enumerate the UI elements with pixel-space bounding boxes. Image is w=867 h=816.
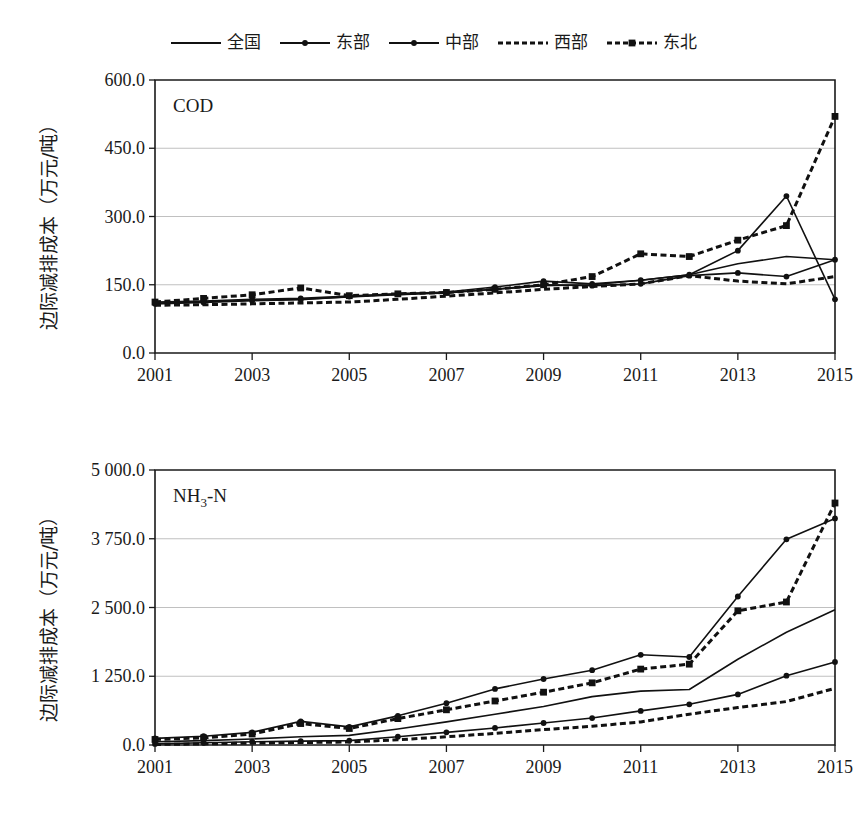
x-tick-label: 2009 (526, 365, 562, 385)
y-tick-label: 1 250.0 (91, 666, 145, 686)
data-point-东北 (297, 285, 304, 292)
legend-key-solid-line-dot (388, 36, 440, 50)
data-point-东北 (832, 113, 839, 120)
series-line-西部 (155, 688, 835, 744)
data-point-东北 (152, 299, 159, 306)
data-point-东部 (784, 193, 790, 199)
data-point-中部 (638, 708, 644, 714)
data-point-东北 (249, 731, 256, 738)
x-tick-label: 2009 (526, 757, 562, 777)
series-line-东部 (155, 518, 835, 738)
nh3n-y-axis-title: 边际减排成本（万元/吨） (34, 507, 61, 722)
legend-entry-全国[interactable]: 全国 (170, 34, 261, 51)
chart-panel-cod: 0.0150.0300.0450.0600.020012003200520072… (0, 62, 867, 407)
data-point-东北 (443, 289, 450, 296)
legend-key-dashed-line-square (606, 36, 658, 50)
y-tick-label: 2 500.0 (91, 598, 145, 618)
data-point-东部 (735, 594, 741, 600)
data-point-中部 (784, 274, 790, 280)
data-point-东北 (540, 689, 547, 696)
chart-legend: 全国东部中部西部东北 (0, 34, 867, 51)
data-point-东北 (783, 222, 790, 229)
data-point-中部 (686, 701, 692, 707)
data-point-中部 (541, 720, 547, 726)
data-point-东北 (686, 661, 693, 668)
legend-entry-东北[interactable]: 东北 (606, 34, 697, 51)
data-point-东部 (444, 700, 450, 706)
series-line-全国 (155, 610, 835, 742)
y-tick-label: 600.0 (105, 70, 146, 90)
legend-label: 西部 (554, 34, 588, 51)
data-point-东部 (541, 676, 547, 682)
data-point-东北 (783, 599, 790, 606)
y-tick-label: 0.0 (123, 343, 146, 363)
legend-label: 全国 (227, 34, 261, 51)
chart-panel-nh3n: 0.01 250.02 500.03 750.05 000.0200120032… (0, 440, 867, 816)
x-tick-label: 2011 (623, 365, 658, 385)
series-line-全国 (155, 257, 835, 303)
x-tick-label: 2015 (817, 365, 853, 385)
legend-key-solid-line-dot (279, 36, 331, 50)
data-point-东部 (492, 686, 498, 692)
data-point-东北 (200, 295, 207, 302)
data-point-东北 (734, 237, 741, 244)
data-point-东北 (589, 273, 596, 280)
x-tick-label: 2001 (137, 757, 173, 777)
data-point-东部 (832, 516, 838, 522)
x-tick-label: 2011 (623, 757, 658, 777)
x-tick-label: 2013 (720, 757, 756, 777)
data-point-中部 (832, 257, 838, 263)
legend-key-solid-line (170, 36, 222, 50)
legend-key-dashed-line (497, 36, 549, 50)
x-tick-label: 2005 (331, 365, 367, 385)
data-point-东北 (589, 679, 596, 686)
y-tick-label: 3 750.0 (91, 529, 145, 549)
x-tick-label: 2007 (428, 757, 464, 777)
legend-label: 中部 (445, 34, 479, 51)
y-tick-label: 450.0 (105, 138, 146, 158)
x-tick-label: 2007 (428, 365, 464, 385)
data-point-中部 (444, 729, 450, 735)
data-point-东北 (152, 736, 159, 743)
data-point-东北 (492, 698, 499, 705)
data-point-中部 (784, 673, 790, 679)
data-point-东部 (784, 536, 790, 542)
data-point-东北 (346, 292, 353, 299)
panel-tag-cod: COD (173, 95, 213, 116)
legend-entry-西部[interactable]: 西部 (497, 34, 588, 51)
data-point-中部 (298, 296, 304, 302)
legend-entry-东部[interactable]: 东部 (279, 34, 370, 51)
data-point-东北 (832, 500, 839, 507)
data-point-东部 (638, 652, 644, 658)
data-point-中部 (735, 692, 741, 698)
data-point-东部 (589, 667, 595, 673)
y-tick-label: 300.0 (105, 207, 146, 227)
legend-entry-中部[interactable]: 中部 (388, 34, 479, 51)
legend-label: 东部 (336, 34, 370, 51)
data-point-东北 (443, 706, 450, 713)
y-tick-label: 0.0 (123, 735, 146, 755)
data-point-东部 (735, 248, 741, 254)
data-point-东北 (249, 291, 256, 298)
data-point-东北 (637, 250, 644, 257)
x-tick-label: 2003 (234, 757, 270, 777)
figure-root: 全国东部中部西部东北 0.0150.0300.0450.0600.0200120… (0, 0, 867, 816)
x-tick-label: 2001 (137, 365, 173, 385)
data-point-东北 (540, 281, 547, 288)
data-point-东部 (686, 654, 692, 660)
data-point-东部 (832, 296, 838, 302)
data-point-东北 (637, 666, 644, 673)
data-point-东北 (394, 715, 401, 722)
cod-chart-svg: 0.0150.0300.0450.0600.020012003200520072… (0, 62, 867, 407)
series-line-东北 (155, 116, 835, 302)
data-point-东北 (686, 253, 693, 260)
data-point-东北 (734, 607, 741, 614)
data-point-东北 (200, 734, 207, 741)
x-tick-label: 2003 (234, 365, 270, 385)
data-point-东北 (346, 725, 353, 732)
data-point-中部 (735, 270, 741, 276)
x-tick-label: 2015 (817, 757, 853, 777)
x-tick-label: 2013 (720, 365, 756, 385)
data-point-东北 (297, 720, 304, 727)
y-tick-label: 5 000.0 (91, 460, 145, 480)
